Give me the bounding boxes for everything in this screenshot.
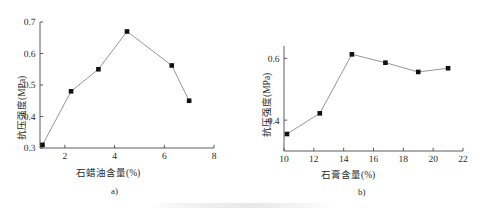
chart-a-caption: a) (111, 186, 118, 196)
chart-panel-b: 0.40.610121416182022 抗压强度(MPa) 石膏含量(%) b… (232, 0, 479, 212)
y-tick-label: 0.6 (268, 55, 280, 65)
data-point-marker (318, 111, 323, 116)
data-point-marker (40, 143, 45, 148)
x-tick-label: 2 (62, 152, 67, 162)
x-tick-label: 22 (458, 155, 468, 165)
chart-b-y-axis-title: 抗压强度(MPa) (259, 73, 273, 137)
data-point-marker (125, 29, 130, 34)
chart-b-x-axis-title: 石膏含量(%) (321, 167, 375, 181)
data-point-marker (416, 70, 421, 75)
y-tick-label: 0.3 (24, 144, 36, 154)
figure-container: 0.30.40.50.60.72468 抗压强度(MPa) 石蜡油含量(%) a… (0, 0, 479, 212)
data-point-marker (446, 66, 451, 71)
y-tick-label: 0.6 (24, 50, 36, 60)
data-point-marker (350, 52, 355, 57)
x-tick-label: 20 (428, 155, 438, 165)
x-tick-label: 4 (112, 152, 117, 162)
x-tick-label: 14 (339, 155, 349, 165)
series-line (287, 54, 448, 134)
chart-a-x-axis-title: 石蜡油含量(%) (76, 165, 140, 179)
series-line (42, 31, 189, 144)
x-tick-label: 6 (162, 152, 167, 162)
x-tick-label: 12 (309, 155, 319, 165)
x-tick-label: 8 (212, 152, 217, 162)
chart-a-plot: 0.30.40.50.60.72468 (0, 0, 232, 212)
chart-panel-a: 0.30.40.50.60.72468 抗压强度(MPa) 石蜡油含量(%) a… (0, 0, 232, 212)
x-tick-label: 10 (279, 155, 289, 165)
data-point-marker (383, 60, 388, 65)
data-point-marker (69, 89, 74, 94)
chart-a-y-axis-title: 抗压强度(MPa) (14, 76, 28, 140)
x-tick-label: 16 (369, 155, 379, 165)
x-tick-label: 18 (399, 155, 409, 165)
data-point-marker (187, 98, 192, 103)
chart-b-caption: b) (358, 187, 366, 197)
data-point-marker (285, 132, 290, 137)
data-point-marker (169, 63, 174, 68)
page-bottom-artifact (148, 203, 338, 208)
data-point-marker (96, 67, 101, 72)
y-tick-label: 0.7 (24, 18, 36, 28)
